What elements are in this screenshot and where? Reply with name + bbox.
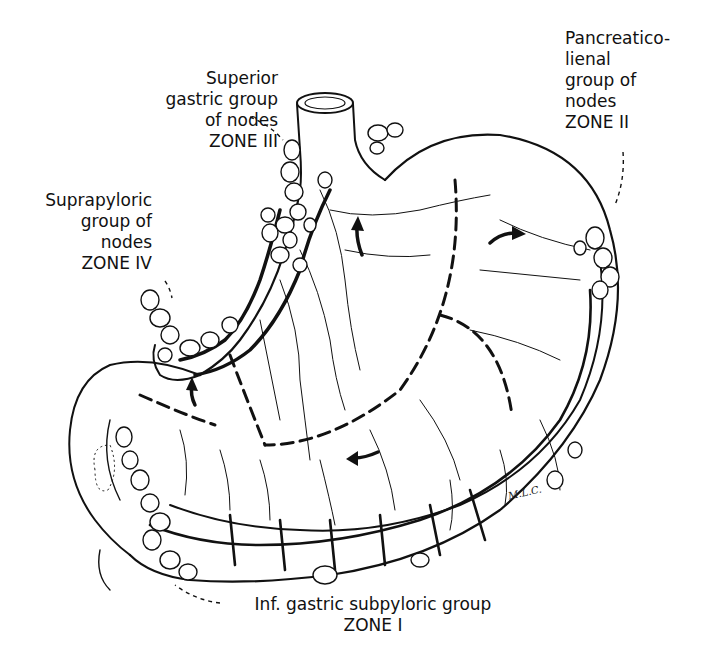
esophagus (297, 93, 385, 190)
label-line: ZONE II (565, 112, 670, 133)
lesser-curvature-vessel (180, 190, 330, 375)
label-line: of nodes (120, 110, 278, 131)
label-line: ZONE I (228, 615, 518, 636)
label-line: nodes (28, 232, 152, 253)
vessels (180, 190, 590, 530)
label-line: Inf. gastric subpyloric group (228, 594, 518, 615)
label-line: ZONE IV (28, 253, 152, 274)
label-line: group of (565, 70, 670, 91)
pyloric-dotted-node (94, 445, 115, 491)
label-line: Superior (120, 68, 278, 89)
label-zone-iv: Suprapyloric group of nodes ZONE IV (28, 190, 152, 274)
label-zone-i: Inf. gastric subpyloric group ZONE I (228, 594, 518, 636)
lymph-nodes (116, 123, 619, 584)
label-zone-iii: Superior gastric group of nodes ZONE III (120, 68, 278, 152)
label-line: gastric group (120, 89, 278, 110)
label-line: Suprapyloric (28, 190, 152, 211)
arrowheads (186, 216, 526, 466)
label-line: group of (28, 211, 152, 232)
label-line: Pancreatico- (565, 28, 670, 49)
label-line: ZONE III (120, 131, 278, 152)
label-zone-ii: Pancreatico- lienal group of nodes ZONE … (565, 28, 670, 133)
flow-arrows (191, 225, 518, 458)
label-line: lienal (565, 49, 670, 70)
label-line: nodes (565, 91, 670, 112)
